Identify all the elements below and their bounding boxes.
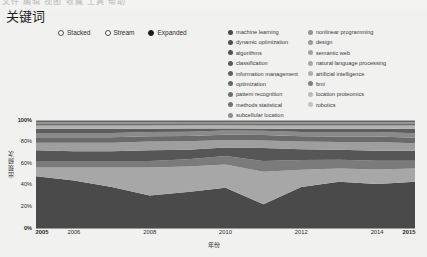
legend-item[interactable]: robotics (308, 101, 386, 109)
y-axis-title: 出现频次 (6, 150, 15, 178)
y-axis-tick-label: 20% (21, 203, 32, 209)
layout-radio-stacked[interactable]: Stacked (58, 29, 91, 36)
y-axis-tick-label: 0% (24, 225, 32, 231)
legend-item[interactable]: dynamic optimization (228, 38, 298, 46)
legend-item[interactable]: pattern recognition (228, 90, 298, 98)
legend-swatch-icon (228, 81, 233, 86)
y-axis-tick-label: 100% (18, 117, 32, 123)
legend-item[interactable]: machine learning (228, 28, 298, 36)
layout-radio-expanded[interactable]: Expanded (148, 29, 186, 36)
legend-column: nonlinear programmingdesignsemantic webn… (308, 28, 386, 119)
legend-item-label: optimization (236, 80, 266, 88)
legend-item[interactable]: algorithms (228, 49, 298, 57)
legend-item-label: robotics (316, 101, 336, 109)
x-axis-tick-label: 2010 (219, 229, 232, 235)
legend-swatch-icon (228, 61, 233, 66)
legend-item-label: design (316, 38, 332, 46)
legend-column: machine learningdynamic optimizationalgo… (228, 28, 298, 119)
legend-swatch-icon (228, 50, 233, 55)
area-band[interactable] (36, 120, 415, 121)
window-menu-ghost-text: 文件 编辑 视图 收藏 工具 帮助 (2, 0, 126, 6)
y-axis-tick-label: 60% (21, 160, 32, 166)
plot-canvas[interactable] (36, 120, 415, 228)
legend-item-label: natural language processing (316, 59, 386, 67)
layout-radio-label: Stacked (67, 29, 91, 36)
legend-swatch-icon (308, 40, 313, 45)
legend-swatch-icon (308, 81, 313, 86)
legend-item-label: methods statistical (236, 101, 282, 109)
legend-item[interactable]: classification (228, 59, 298, 67)
x-axis-tick-label: 2005 (36, 229, 49, 235)
legend-swatch-icon (228, 92, 233, 97)
area-band[interactable] (36, 123, 415, 125)
legend-swatch-icon (308, 61, 313, 66)
layout-radio-label: Expanded (157, 29, 186, 36)
legend-swatch-icon (308, 30, 313, 35)
x-axis-tick-label: 2015 (403, 229, 416, 235)
x-axis-title: 年份 (0, 240, 427, 249)
legend-item[interactable]: bmi (308, 80, 386, 88)
legend-swatch-icon (308, 92, 313, 97)
legend-swatch-icon (308, 71, 313, 76)
legend-item-label: location proteomics (316, 90, 364, 98)
radio-dot-icon (148, 30, 154, 36)
legend-item[interactable]: natural language processing (308, 59, 386, 67)
legend-item-label: classification (236, 59, 268, 67)
legend-item[interactable]: location proteomics (308, 90, 386, 98)
legend-item[interactable]: nonlinear programming (308, 28, 386, 36)
x-axis-tick-label: 2014 (371, 229, 384, 235)
layout-radio-group[interactable]: StackedStreamExpanded (58, 29, 187, 36)
legend-item[interactable]: methods statistical (228, 101, 298, 109)
area-band[interactable] (36, 121, 415, 122)
legend-swatch-icon (308, 102, 313, 107)
area-band[interactable] (36, 122, 415, 123)
radio-dot-icon (105, 30, 111, 36)
window-top-strip: 文件 编辑 视图 收藏 工具 帮助 (0, 0, 427, 9)
legend-item[interactable]: artificial intelligence (308, 70, 386, 78)
legend-swatch-icon (228, 71, 233, 76)
legend-swatch-icon (228, 30, 233, 35)
legend-item[interactable]: information management (228, 70, 298, 78)
radio-dot-icon (58, 30, 64, 36)
keyword-stream-chart-page: 文件 编辑 视图 收藏 工具 帮助 关键词 StackedStreamExpan… (0, 0, 427, 257)
legend-item[interactable]: design (308, 38, 386, 46)
y-axis-tick-label: 40% (21, 181, 32, 187)
legend-item-label: bmi (316, 80, 325, 88)
legend-item-label: artificial intelligence (316, 70, 365, 78)
legend-item-label: machine learning (236, 28, 279, 36)
y-axis-tick-label: 80% (21, 138, 32, 144)
legend-item[interactable]: optimization (228, 80, 298, 88)
x-axis-tick-label: 2012 (295, 229, 308, 235)
x-axis-tick-label: 2006 (67, 229, 80, 235)
legend-item-label: algorithms (236, 49, 262, 57)
area-bands (36, 120, 415, 228)
page-title: 关键词 (6, 9, 45, 24)
legend-item-label: nonlinear programming (316, 28, 374, 36)
legend-item-label: semantic web (316, 49, 350, 57)
x-axis-tick-label: 2008 (143, 229, 156, 235)
legend-item-label: information management (236, 70, 298, 78)
legend-swatch-icon (308, 50, 313, 55)
layout-radio-label: Stream (114, 29, 135, 36)
chart-legend: machine learningdynamic optimizationalgo… (228, 28, 386, 119)
layout-radio-stream[interactable]: Stream (105, 29, 135, 36)
area-band[interactable] (36, 125, 415, 129)
legend-swatch-icon (228, 102, 233, 107)
chart-area: 0%20%40%60%80%100% 出现频次 2005200620082010… (0, 112, 427, 257)
legend-item[interactable]: semantic web (308, 49, 386, 57)
legend-item-label: pattern recognition (236, 90, 282, 98)
legend-swatch-icon (228, 40, 233, 45)
legend-item-label: dynamic optimization (236, 38, 288, 46)
